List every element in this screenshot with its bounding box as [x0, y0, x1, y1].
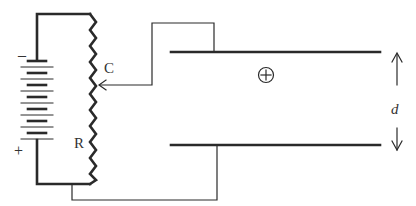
slider-wire	[100, 23, 214, 85]
resistor-label: R	[74, 135, 84, 151]
battery-icon	[21, 61, 53, 139]
zigzag-resistor-icon	[90, 14, 96, 184]
contact-label: C	[104, 60, 114, 76]
separation-label: d	[391, 101, 399, 117]
circled-plus-icon	[259, 68, 274, 83]
circuit-diagram: – + C R d	[0, 0, 416, 206]
battery-loop-wire	[37, 14, 90, 184]
circuit-canvas: – + C R d	[0, 0, 416, 206]
battery-negative-label: –	[17, 46, 27, 63]
battery-positive-label: +	[14, 142, 23, 159]
